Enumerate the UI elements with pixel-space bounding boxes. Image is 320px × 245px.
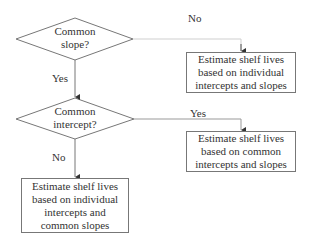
box-line: intercepts and slopes — [195, 158, 287, 171]
edge-yes-d2-b2 — [134, 119, 241, 130]
decision-line: Common — [40, 105, 110, 118]
box-line: Estimate shelf lives — [32, 180, 118, 193]
box-line: based on individual — [32, 193, 118, 206]
box-line: common slopes — [32, 219, 118, 232]
edge-label-no-1: No — [188, 12, 201, 24]
process-individual-intercepts-slopes: Estimate shelf lives based on individual… — [186, 52, 296, 93]
process-common-intercepts-slopes: Estimate shelf lives based on common int… — [186, 131, 296, 172]
decision-line: intercept? — [40, 118, 110, 131]
decision-line: Common — [45, 25, 105, 38]
process-individual-intercepts-common-slopes: Estimate shelf lives based on individual… — [21, 178, 129, 233]
decision-common-slope: Common slope? — [45, 25, 105, 51]
box-line: intercepts and — [32, 206, 118, 219]
box-line: Estimate shelf lives — [195, 132, 287, 145]
edge-label-yes-1: Yes — [52, 72, 68, 84]
decision-line: slope? — [45, 38, 105, 51]
edge-label-yes-2: Yes — [190, 107, 206, 119]
edge-no-d1-b1 — [133, 39, 241, 51]
box-line: based on common — [195, 145, 287, 158]
decision-common-intercept: Common intercept? — [40, 105, 110, 131]
box-line: based on individual — [195, 66, 287, 79]
box-line: Estimate shelf lives — [195, 53, 287, 66]
box-line: intercepts and slopes — [195, 79, 287, 92]
edge-label-no-2: No — [52, 151, 65, 163]
